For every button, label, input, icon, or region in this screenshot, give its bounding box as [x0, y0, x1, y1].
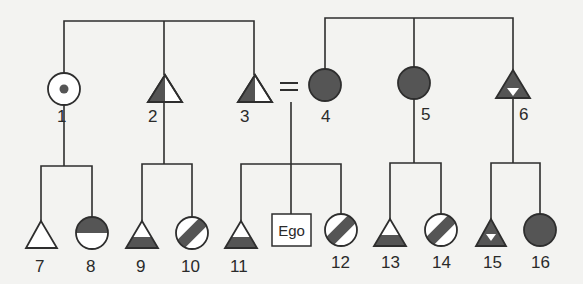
- label-15: 15: [483, 253, 502, 272]
- label-11: 11: [230, 257, 248, 276]
- label-13: 13: [381, 253, 400, 272]
- kinship-diagram: 1 2 3 4 5 6 7 8 9: [0, 0, 583, 284]
- label-6: 6: [519, 105, 528, 124]
- label-14: 14: [432, 253, 451, 272]
- ego-label: Ego: [278, 222, 305, 239]
- label-4: 4: [321, 107, 330, 126]
- person-7: 7: [26, 221, 57, 276]
- label-7: 7: [35, 257, 44, 276]
- person-15: 15: [476, 219, 506, 272]
- descent-lines: [41, 18, 540, 221]
- person-3: 3: [238, 70, 272, 126]
- person-1: 1: [48, 73, 80, 126]
- label-5: 5: [421, 105, 430, 124]
- label-1: 1: [57, 107, 66, 126]
- ego: Ego: [272, 214, 311, 246]
- label-2: 2: [148, 107, 157, 126]
- person-14: 14: [425, 214, 457, 272]
- label-3: 3: [240, 107, 249, 126]
- person-4: 4: [309, 69, 341, 126]
- person-12: 12: [325, 214, 357, 272]
- person-8: 8: [74, 215, 110, 276]
- person-2: 2: [148, 70, 182, 126]
- person-13: 13: [372, 219, 408, 272]
- label-12: 12: [331, 253, 350, 272]
- person-10: 10: [176, 217, 208, 276]
- label-10: 10: [181, 257, 200, 276]
- label-9: 9: [136, 257, 145, 276]
- marriage-equals-sign: [280, 83, 298, 90]
- person-9: 9: [124, 221, 160, 276]
- label-16: 16: [531, 253, 550, 272]
- person-11: 11: [223, 221, 259, 276]
- label-8: 8: [86, 257, 95, 276]
- person-16: 16: [524, 214, 556, 272]
